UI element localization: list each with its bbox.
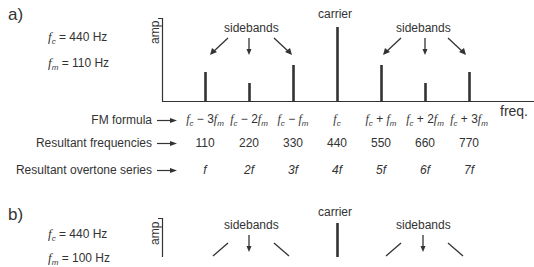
- overtone-cell: 3f: [271, 163, 315, 177]
- frequencies-row-label: Resultant frequencies: [36, 136, 152, 150]
- frequency-cell: 220: [227, 136, 271, 150]
- overtone-cell: f: [183, 163, 227, 177]
- fm-formula-row-label: FM formula: [91, 113, 152, 127]
- fc-value-b: 440 Hz: [69, 227, 107, 241]
- sidebands-label-right-b: sidebands: [396, 218, 451, 232]
- panel-b-label: b): [8, 205, 23, 225]
- frequency-cell: 440: [315, 136, 359, 150]
- formula-cell: fc − 2fm: [227, 112, 271, 128]
- fm-value-b: 100 Hz: [72, 251, 110, 265]
- formula-cell: fc: [315, 112, 359, 128]
- modulator-frequency-param-b: fm = 100 Hz: [48, 250, 110, 267]
- frequency-cell: 550: [359, 136, 403, 150]
- overtone-cell: 7f: [447, 163, 491, 177]
- sidebands-label-left-b: sidebands: [224, 218, 279, 232]
- frequency-cell: 330: [271, 136, 315, 150]
- overtone-cell: 2f: [227, 163, 271, 177]
- carrier-label-b: carrier: [318, 205, 352, 219]
- formula-cell: fc + 2fm: [403, 112, 447, 128]
- overtone-cell: 6f: [403, 163, 447, 177]
- formula-cell: fc + 3fm: [447, 112, 491, 128]
- overtone-cell: 5f: [359, 163, 403, 177]
- formula-cell: fc − fm: [271, 112, 315, 128]
- overtone-cell: 4f: [315, 163, 359, 177]
- frequency-cell: 770: [447, 136, 491, 150]
- carrier-frequency-param-b: fc = 440 Hz: [48, 226, 107, 243]
- frequency-cell: 660: [403, 136, 447, 150]
- frequency-cell: 110: [183, 136, 227, 150]
- y-axis-label-b: amp: [148, 222, 162, 245]
- formula-cell: fc + fm: [359, 112, 403, 128]
- overtone-row-label: Resultant overtone series: [16, 163, 152, 177]
- formula-cell: fc − 3fm: [183, 112, 227, 128]
